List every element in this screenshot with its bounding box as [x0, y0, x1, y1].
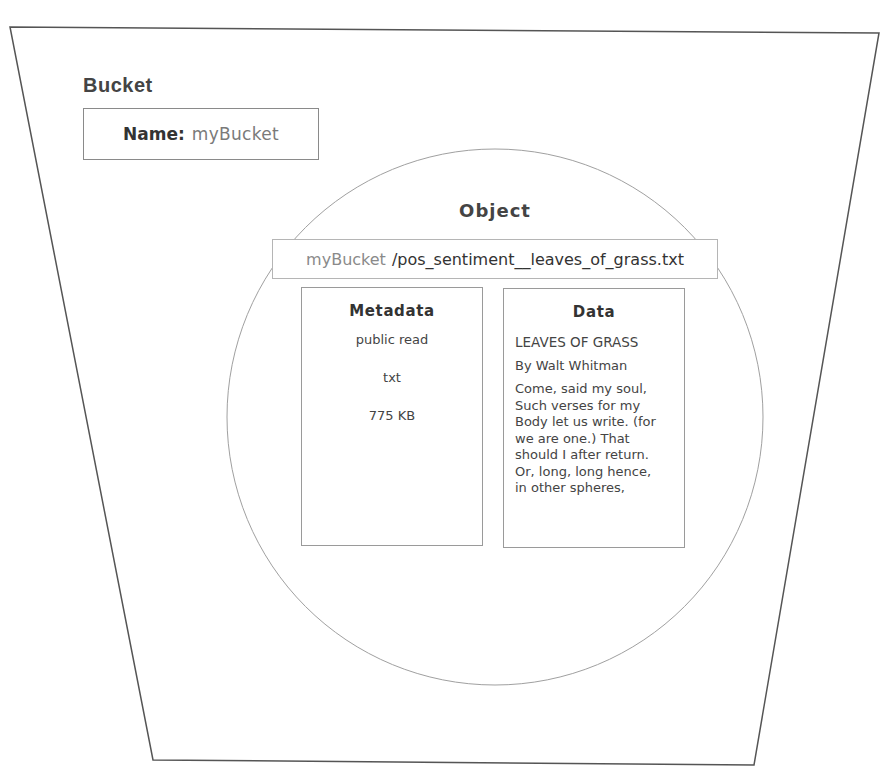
data-body: Come, said my soul, Such verses for my B… [515, 381, 674, 497]
object-title: Object [395, 200, 595, 221]
data-body-line: should I after return. [515, 447, 674, 464]
bucket-name-label: Name: [123, 124, 185, 144]
object-path-bucket: myBucket [306, 250, 386, 269]
data-panel: Data LEAVES OF GRASS By Walt Whitman Com… [503, 288, 685, 548]
data-body-line: Body let us write. (for [515, 414, 674, 431]
data-body-line: we are one.) That [515, 431, 674, 448]
object-path-box: myBucket /pos_sentiment__leaves_of_grass… [272, 239, 718, 279]
metadata-panel: Metadata public read txt 775 KB [301, 287, 483, 546]
metadata-title: Metadata [302, 302, 482, 320]
metadata-acl: public read [302, 332, 482, 347]
bucket-title: Bucket [83, 74, 153, 97]
data-byline: By Walt Whitman [515, 358, 674, 373]
object-path-key: /pos_sentiment__leaves_of_grass.txt [392, 250, 684, 269]
data-heading: LEAVES OF GRASS [515, 334, 674, 350]
data-body-line: Or, long, long hence, [515, 464, 674, 481]
bucket-name-value: myBucket [192, 124, 279, 144]
data-body-line: Come, said my soul, [515, 381, 674, 398]
data-body-line: Such verses for my [515, 398, 674, 415]
metadata-size: 775 KB [302, 408, 482, 423]
bucket-name-box: Name: myBucket [83, 108, 319, 160]
metadata-type: txt [302, 370, 482, 385]
data-content: LEAVES OF GRASS By Walt Whitman Come, sa… [504, 334, 684, 497]
data-title: Data [504, 303, 684, 321]
data-body-line: in other spheres, [515, 480, 674, 497]
